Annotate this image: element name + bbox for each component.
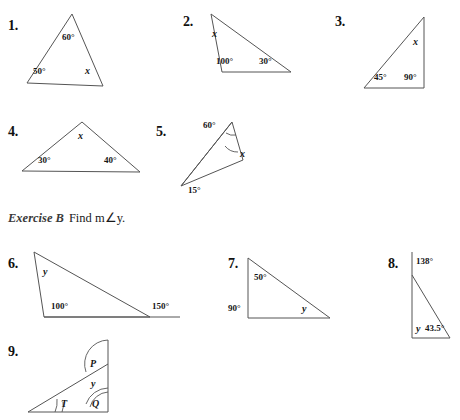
label-8-angle-138: 138°: [416, 256, 433, 266]
label-1-variable-x: x: [85, 65, 90, 76]
label-3-variable-x: x: [413, 36, 418, 47]
problem-number-3: 3.: [335, 14, 345, 30]
label-8-variable-y: y: [416, 323, 420, 334]
label-9-variable-t: T: [61, 398, 67, 409]
label-9-variable-p: P: [90, 358, 96, 369]
label-9-variable-q: Q: [92, 398, 99, 409]
label-3-angle-90: 90°: [404, 72, 417, 82]
exercise-instruction: Find m∠y.: [69, 211, 125, 225]
label-6-variable-y: y: [43, 266, 47, 277]
problem-number-6: 6.: [8, 256, 18, 272]
figure-5-triangle: [181, 122, 243, 186]
label-4-variable-x: x: [78, 130, 83, 141]
label-5-angle-60: 60°: [203, 120, 216, 130]
exercise-title: Exercise B: [8, 211, 64, 225]
label-2-variable-x: x: [212, 28, 217, 39]
problem-number-1: 1.: [8, 18, 18, 34]
label-8-angle-43-5: 43.5°: [425, 323, 444, 333]
label-7-angle-90: 90°: [228, 303, 241, 313]
worksheet-page: 1. 2. 3. 4. 5. 6. 7. 8. 9. 60° 50° x x 1…: [0, 0, 460, 420]
problem-number-9: 9.: [8, 344, 18, 360]
figure-7-triangle: [248, 258, 330, 318]
label-9-variable-y: y: [91, 378, 95, 389]
problem-number-7: 7.: [228, 256, 238, 272]
angle-arc-marks: [55, 133, 238, 412]
label-2-angle-30: 30°: [259, 56, 272, 66]
label-4-angle-30: 30°: [38, 155, 51, 165]
label-1-angle-50: 50°: [33, 66, 46, 76]
label-6-angle-150: 150°: [152, 301, 169, 311]
label-2-angle-100: 100°: [216, 56, 233, 66]
label-7-variable-y: y: [302, 303, 306, 314]
label-7-angle-50: 50°: [254, 272, 267, 282]
label-4-angle-40: 40°: [104, 155, 117, 165]
exercise-heading: Exercise BFind m∠y.: [8, 210, 125, 226]
label-1-angle-60: 60°: [62, 32, 75, 42]
problem-number-2: 2.: [183, 14, 193, 30]
problem-number-8: 8.: [388, 256, 398, 272]
problem-number-4: 4.: [8, 124, 18, 140]
label-3-angle-45: 45°: [374, 72, 387, 82]
problem-number-5: 5.: [156, 124, 166, 140]
label-5-angle-15: 15°: [188, 185, 201, 195]
label-6-angle-100: 100°: [51, 301, 68, 311]
label-5-variable-x: x: [240, 148, 245, 159]
